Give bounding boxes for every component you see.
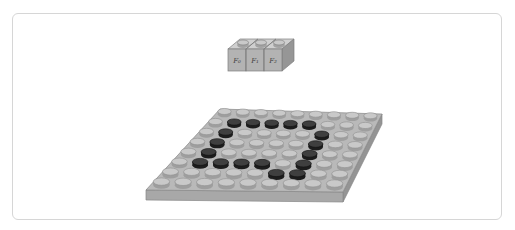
stud-r7-c5: [247, 169, 263, 180]
stud-r8-c5: [240, 179, 256, 190]
stud-r6-c7: [296, 160, 312, 170]
stud-r1-c4: [273, 110, 286, 119]
stud-r7-c9: [332, 170, 348, 181]
stud-r7-c8: [311, 170, 327, 181]
stud-r5-c4: [241, 149, 256, 159]
stud-r2-c7: [321, 121, 335, 130]
stud-r6-c6: [275, 160, 291, 170]
stud-r3-c2: [219, 129, 233, 138]
stud-r5-c6: [282, 150, 297, 160]
stud-r1-c1: [218, 108, 231, 117]
stud-r3-c3: [238, 129, 252, 138]
brick-1-stud: [255, 40, 266, 48]
stud-r3-c1: [199, 128, 213, 137]
stud-r1-c5: [291, 111, 304, 120]
stud-r8-c4: [218, 179, 234, 190]
stud-r4-c5: [269, 140, 284, 150]
stud-r2-c2: [227, 119, 241, 128]
stud-r5-c1: [181, 148, 196, 158]
stud-r4-c6: [289, 140, 304, 150]
stud-r1-c6: [309, 111, 322, 120]
stud-r6-c9: [337, 161, 353, 171]
stud-r7-c3: [205, 169, 221, 180]
stud-r2-c1: [209, 118, 223, 127]
stud-r4-c1: [190, 138, 205, 148]
stud-r1-c9: [364, 113, 377, 122]
stud-r5-c3: [221, 149, 236, 159]
stud-r2-c5: [284, 120, 298, 129]
stud-r3-c8: [334, 131, 348, 140]
stud-r7-c1: [162, 168, 178, 179]
brick-label-f2: F₂: [264, 54, 282, 68]
stud-r8-c6: [261, 179, 277, 190]
stud-r7-c2: [184, 168, 200, 179]
stud-r2-c6: [302, 121, 316, 130]
stud-r3-c9: [353, 132, 367, 141]
stud-r5-c2: [201, 149, 216, 159]
stud-r8-c1: [153, 178, 169, 189]
stud-r6-c1: [172, 158, 188, 168]
stud-r8-c9: [326, 180, 342, 191]
stud-r1-c3: [254, 110, 267, 119]
lego-scene: [0, 0, 515, 230]
stud-r8-c8: [305, 180, 321, 191]
stud-r3-c5: [276, 130, 290, 139]
brick-0-stud: [237, 40, 248, 48]
stud-r8-c2: [175, 178, 191, 189]
lego-figure: F₀ F₁ F₂: [0, 0, 515, 230]
stud-r3-c4: [257, 130, 271, 139]
stud-r6-c3: [213, 159, 229, 169]
stud-r1-c2: [236, 109, 249, 118]
stud-r8-c3: [197, 178, 213, 189]
stud-r1-c8: [346, 112, 359, 121]
stud-r5-c7: [302, 150, 317, 160]
brick-label-f0: F₀: [228, 54, 246, 68]
stud-r4-c2: [210, 139, 225, 149]
stud-r6-c2: [192, 158, 208, 168]
stud-r2-c8: [340, 122, 354, 131]
stud-r5-c8: [322, 151, 337, 161]
stud-r7-c4: [226, 169, 242, 180]
brick-2-stud: [273, 40, 284, 48]
stud-r2-c9: [358, 122, 372, 131]
stud-r7-c6: [268, 169, 284, 180]
stud-r2-c4: [265, 120, 279, 129]
stud-r7-c7: [289, 170, 305, 181]
stud-r4-c9: [348, 142, 363, 152]
stud-r2-c3: [246, 119, 260, 128]
stud-r3-c6: [295, 131, 309, 140]
stud-r5-c5: [262, 150, 277, 160]
brick-label-f1: F₁: [246, 54, 264, 68]
stud-r6-c8: [316, 160, 332, 170]
stud-r4-c4: [249, 139, 264, 149]
stud-r4-c7: [308, 141, 323, 151]
stud-r8-c7: [283, 179, 299, 190]
stud-r5-c9: [342, 151, 357, 161]
stud-r6-c4: [234, 159, 250, 169]
stud-r3-c7: [315, 131, 329, 140]
stud-r4-c8: [328, 141, 343, 151]
stud-r1-c7: [327, 112, 340, 121]
stud-r4-c3: [230, 139, 245, 149]
stud-r6-c5: [254, 159, 270, 169]
